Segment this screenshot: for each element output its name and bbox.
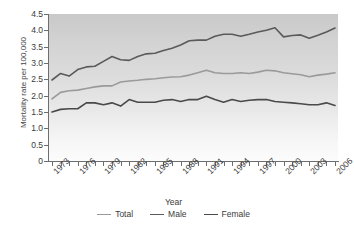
y-tick [44,96,49,97]
y-tick [44,145,49,146]
legend-item-male[interactable]: Male [150,209,186,219]
legend-swatch-female [204,214,218,215]
legend-label-male: Male [168,209,186,219]
series-line-female [52,96,335,112]
y-axis-line [48,14,49,162]
y-tick [44,112,49,113]
series-line-total [52,70,335,99]
y-tick [44,63,49,64]
y-axis-title: Mortality rate per 100,000 [19,8,28,158]
x-tick [78,162,79,166]
chart-legend: Total Male Female [0,209,347,219]
y-tick [44,47,49,48]
y-tick [44,30,49,31]
legend-item-total[interactable]: Total [97,209,133,219]
x-tick [181,162,182,166]
y-tick [44,79,49,80]
legend-swatch-total [97,214,111,215]
x-axis-title: Year [0,197,347,207]
y-tick [44,128,49,129]
y-tick [44,14,49,15]
series-lines [49,14,338,161]
legend-label-female: Female [222,209,250,219]
y-tick-label: 0 [1,157,43,165]
legend-swatch-male [150,214,164,215]
plot-area [49,14,338,161]
y-tick [44,161,49,162]
legend-item-female[interactable]: Female [204,209,250,219]
x-tick [284,162,285,166]
legend-label-total: Total [115,209,133,219]
series-line-male [52,28,335,80]
